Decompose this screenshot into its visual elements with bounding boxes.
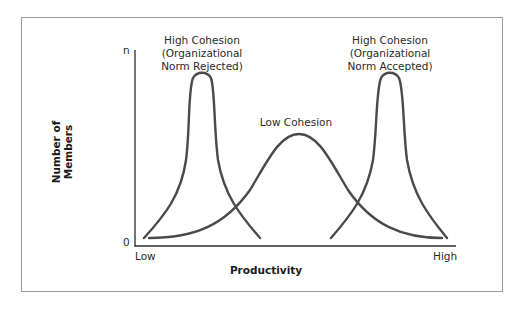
x-axis-right-tick: High [433,250,457,262]
label-line: High Cohesion [161,34,243,47]
curve-low-cohesion [149,134,442,238]
y-axis-bottom-tick: 0 [123,236,130,248]
label-line: Norm Rejected) [161,60,243,73]
x-axis-label: Productivity [230,264,302,276]
label-line: High Cohesion [348,34,433,47]
label-line: (Organizational [348,47,433,60]
label-line: Low Cohesion [260,116,332,129]
label-high-cohesion-accepted: High Cohesion (Organizational Norm Accep… [348,34,433,73]
label-high-cohesion-rejected: High Cohesion (Organizational Norm Rejec… [161,34,243,73]
y-axis-label-line2: Members [62,121,74,183]
label-line: Norm Accepted) [348,60,433,73]
curve-high-cohesion-accepted [331,73,447,238]
curve-high-cohesion-rejected [144,73,260,238]
y-axis-top-tick: n [123,44,130,56]
y-axis-label: Number of Members [50,121,74,183]
y-axis-label-line1: Number of [50,121,62,183]
x-axis-left-tick: Low [135,250,156,262]
label-low-cohesion: Low Cohesion [260,116,332,129]
label-line: (Organizational [161,47,243,60]
